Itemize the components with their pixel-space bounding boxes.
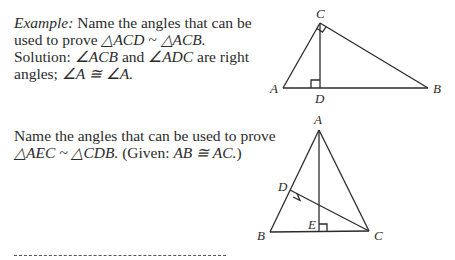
fig2-label-e: E <box>307 217 316 232</box>
right-angle-mark-e <box>319 224 327 231</box>
fig1-label-c: C <box>316 6 325 21</box>
right-angle-mark-c <box>317 27 326 32</box>
fig2-label-c: C <box>374 228 383 243</box>
answer-line[interactable] <box>14 255 226 256</box>
right-angle-mark-d <box>311 80 320 88</box>
figure-1-right-triangle <box>283 23 428 88</box>
fig1-label-b: B <box>433 81 441 96</box>
fig2-label-a: A <box>313 112 322 127</box>
geometry-figures: C A D B A D E B C <box>0 0 455 260</box>
fig1-label-a: A <box>269 81 278 96</box>
fig2-label-b: B <box>257 228 265 243</box>
fig1-label-d: D <box>314 91 325 106</box>
fig2-label-d: D <box>277 179 288 194</box>
